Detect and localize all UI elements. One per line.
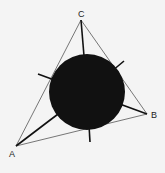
- vertex-label-c: C: [78, 9, 85, 19]
- incircle: [49, 54, 125, 130]
- diagram-canvas: C A B: [0, 0, 165, 173]
- vertex-label-b: B: [151, 110, 157, 120]
- vertex-label-a: A: [9, 149, 15, 159]
